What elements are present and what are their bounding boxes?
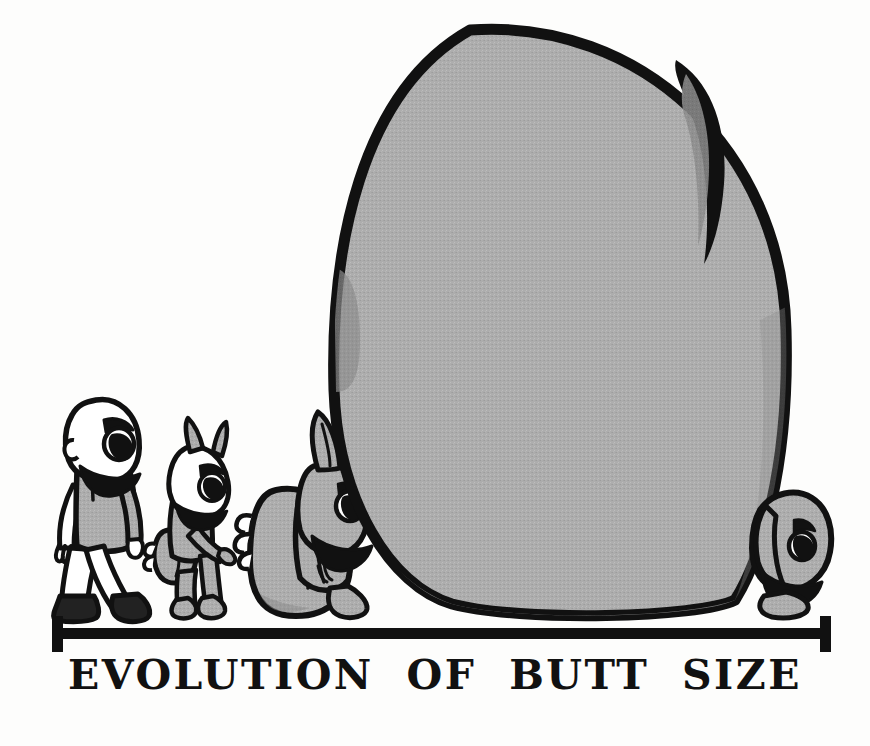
stage-2-ear-right: [213, 422, 227, 456]
measurement-bar-right-cap: [820, 616, 831, 652]
measurement-bar-left-cap: [52, 616, 63, 652]
illustration-canvas: EVOLUTION OF BUTT SIZE: [0, 0, 870, 746]
stage-2-front-foot: [198, 596, 225, 618]
stage-2-back-foot: [172, 598, 197, 618]
stage-3-foot: [328, 586, 367, 618]
stage-4-giant-butt: [334, 29, 787, 615]
stage-4-foot: [760, 592, 808, 618]
caption-title: EVOLUTION OF BUTT SIZE: [0, 655, 870, 696]
stage-2-hand: [218, 549, 235, 564]
stage-1-upright-walking-figure: [54, 399, 150, 621]
stage-1-front-hand: [128, 539, 144, 558]
measurement-bar-rule: [57, 628, 826, 639]
stage-4-giant-butt-figure: [300, 29, 831, 660]
measurement-bar: [52, 616, 831, 652]
stage-2-crouching-eared-figure: [144, 418, 235, 618]
stage-2-ear-left: [186, 418, 203, 452]
stage-1-front-shoe: [112, 594, 150, 622]
evolution-illustration: [0, 0, 870, 746]
